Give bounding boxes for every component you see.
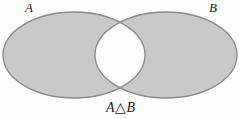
figure-caption: A△B — [0, 100, 241, 115]
venn-diagram-figure: A B A△B — [0, 0, 241, 119]
caption-right-operand: B — [126, 100, 135, 115]
caption-operator-symmetric-difference: △ — [115, 100, 127, 115]
caption-left-operand: A — [106, 100, 115, 115]
set-label-b: B — [209, 1, 217, 14]
set-label-a: A — [25, 1, 33, 14]
